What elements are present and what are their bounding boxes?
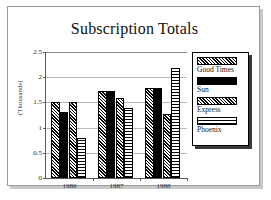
x-tick-mark (140, 178, 141, 181)
y-tick-label: 0 (39, 174, 43, 182)
bar (77, 138, 86, 178)
slide-frame: Subscription Totals (Thousands) 00.511.5… (7, 6, 260, 186)
y-tick-label: 2.5 (33, 48, 42, 56)
x-tick-label: 1988 (157, 182, 171, 190)
x-tick-mark (93, 178, 94, 181)
gridline (46, 77, 187, 78)
y-tick-mark (43, 77, 46, 78)
legend-item: Sun (197, 77, 244, 95)
y-tick-mark (43, 153, 46, 154)
x-tick-mark (187, 178, 188, 181)
legend-swatch-sun (197, 77, 237, 85)
bar (163, 114, 172, 179)
plot-top-border (46, 52, 187, 53)
legend-item-label: Good Times (197, 65, 244, 75)
bar (154, 88, 163, 178)
bar (171, 68, 180, 178)
legend-swatch-phoenix (197, 117, 237, 125)
bar (51, 102, 60, 178)
legend-item: Good Times (197, 57, 244, 75)
y-tick-label: 0.5 (33, 149, 42, 157)
bar (145, 88, 154, 178)
y-tick-mark (43, 178, 46, 179)
bar (124, 108, 133, 178)
bar (98, 91, 107, 178)
y-tick-label: 1 (39, 124, 43, 132)
bar (116, 98, 125, 178)
legend-item-label: Sun (197, 85, 244, 95)
legend-swatch-good-times (197, 57, 237, 65)
bar (60, 112, 69, 178)
bar (69, 102, 78, 178)
slide-canvas: Subscription Totals (Thousands) 00.511.5… (0, 0, 271, 200)
y-tick-label: 1.5 (33, 98, 42, 106)
y-axis-title: (Thousands) (16, 80, 23, 115)
y-tick-label: 2 (39, 73, 43, 81)
chart-legend: Good TimesSunExpressPhoenix (192, 52, 249, 146)
bar (107, 91, 116, 178)
legend-swatch-express (197, 97, 237, 105)
legend-item-label: Phoenix (197, 125, 244, 135)
y-tick-mark (43, 128, 46, 129)
x-tick-label: 1986 (63, 182, 77, 190)
y-tick-mark (43, 52, 46, 53)
legend-item: Express (197, 97, 244, 115)
x-tick-label: 1987 (110, 182, 124, 190)
legend-item-label: Express (197, 105, 244, 115)
legend-item: Phoenix (197, 117, 244, 135)
plot-area: 00.511.522.5 198619871988 (45, 52, 187, 179)
y-tick-mark (43, 102, 46, 103)
